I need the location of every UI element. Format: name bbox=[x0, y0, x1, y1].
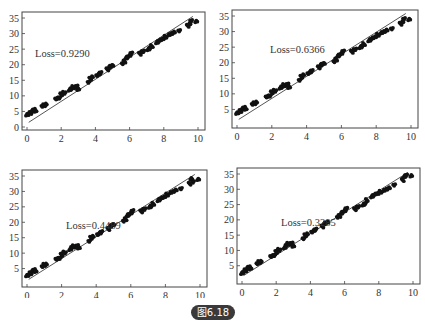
data-points bbox=[24, 18, 199, 117]
y-tick-label: 10 bbox=[9, 248, 19, 259]
y-tick-label: 15 bbox=[219, 73, 229, 84]
loss-annotation: Loss=0.9290 bbox=[35, 48, 90, 59]
chart-panel-3: 51015202530350246810Loss=0.4489 bbox=[0, 150, 212, 298]
x-tick-label: 4 bbox=[308, 287, 313, 298]
y-tick-label: 20 bbox=[224, 214, 234, 225]
x-tick-label: 2 bbox=[59, 290, 64, 298]
y-tick-label: 30 bbox=[219, 26, 229, 37]
y-tick-label: 25 bbox=[219, 42, 229, 53]
y-tick-label: 15 bbox=[224, 230, 234, 241]
x-tick-label: 10 bbox=[406, 131, 416, 142]
y-tick-label: 25 bbox=[224, 199, 234, 210]
x-tick-label: 0 bbox=[240, 287, 245, 298]
x-tick-label: 6 bbox=[342, 287, 347, 298]
scatter-plot-2: 51015202530350246810Loss=0.6366 bbox=[212, 0, 425, 150]
y-tick-label: 20 bbox=[9, 59, 19, 70]
x-tick-label: 10 bbox=[195, 290, 205, 298]
x-tick-label: 6 bbox=[127, 133, 132, 144]
y-tick-label: 30 bbox=[9, 186, 19, 197]
y-tick-label: 35 bbox=[9, 171, 19, 182]
scatter-plot-1: 051015202530350246810Loss=0.9290 bbox=[0, 0, 212, 150]
loss-annotation: Loss=0.4489 bbox=[66, 220, 121, 231]
y-tick-label: 35 bbox=[224, 169, 234, 180]
y-tick-label: 20 bbox=[219, 57, 229, 68]
y-tick-label: 20 bbox=[9, 217, 19, 228]
x-tick-label: 0 bbox=[235, 131, 240, 142]
x-tick-label: 0 bbox=[25, 133, 30, 144]
y-tick-label: 10 bbox=[219, 88, 229, 99]
x-tick-label: 8 bbox=[163, 290, 168, 298]
loss-annotation: Loss=0.3285 bbox=[281, 217, 336, 228]
y-tick-label: 25 bbox=[9, 201, 19, 212]
chart-panel-2: 51015202530350246810Loss=0.6366 bbox=[212, 0, 425, 150]
x-tick-label: 6 bbox=[339, 131, 344, 142]
scatter-plot-4: 51015202530350246810Loss=0.3285 bbox=[212, 150, 425, 298]
x-tick-label: 2 bbox=[269, 131, 274, 142]
y-tick-label: 35 bbox=[9, 13, 19, 24]
y-tick-label: 5 bbox=[229, 260, 234, 271]
y-tick-label: 30 bbox=[9, 28, 19, 39]
y-tick-label: 5 bbox=[14, 106, 19, 117]
x-tick-label: 10 bbox=[408, 287, 418, 298]
y-tick-label: 15 bbox=[9, 232, 19, 243]
x-tick-label: 8 bbox=[374, 131, 379, 142]
x-tick-label: 4 bbox=[93, 133, 98, 144]
y-tick-label: 25 bbox=[9, 44, 19, 55]
chart-panel-1: 051015202530350246810Loss=0.9290 bbox=[0, 0, 212, 150]
x-tick-label: 4 bbox=[94, 290, 99, 298]
x-tick-label: 8 bbox=[161, 133, 166, 144]
x-tick-label: 2 bbox=[274, 287, 279, 298]
y-tick-label: 5 bbox=[14, 263, 19, 274]
scatter-plot-3: 51015202530350246810Loss=0.4489 bbox=[0, 150, 212, 298]
x-tick-label: 6 bbox=[128, 290, 133, 298]
loss-annotation: Loss=0.6366 bbox=[270, 44, 325, 55]
figure-caption: 图6.18 bbox=[191, 305, 235, 320]
x-tick-label: 10 bbox=[193, 133, 203, 144]
data-points bbox=[234, 16, 412, 116]
y-tick-label: 35 bbox=[219, 11, 229, 22]
x-tick-label: 0 bbox=[25, 290, 30, 298]
y-tick-label: 15 bbox=[9, 75, 19, 86]
x-tick-label: 4 bbox=[304, 131, 309, 142]
y-tick-label: 0 bbox=[14, 122, 19, 133]
x-tick-label: 2 bbox=[59, 133, 64, 144]
y-tick-label: 30 bbox=[224, 184, 234, 195]
y-tick-label: 10 bbox=[224, 245, 234, 256]
x-tick-label: 8 bbox=[376, 287, 381, 298]
chart-panel-4: 51015202530350246810Loss=0.3285 bbox=[212, 150, 425, 298]
y-tick-label: 5 bbox=[224, 104, 229, 115]
y-tick-label: 10 bbox=[9, 90, 19, 101]
